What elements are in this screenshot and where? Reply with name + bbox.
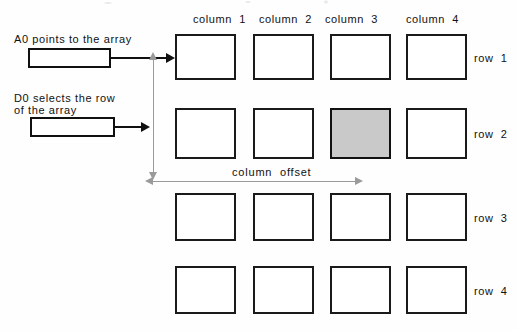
array-cell[interactable] (330, 266, 391, 314)
array-cell[interactable] (253, 266, 314, 314)
column-offset-arrow-right-icon (355, 177, 363, 185)
array-cell[interactable] (253, 108, 314, 159)
array-cell-selected[interactable] (330, 108, 391, 159)
row-label-4: row 4 (474, 285, 508, 298)
column-header-1: column 1 (193, 13, 246, 26)
array-cell[interactable] (175, 193, 236, 241)
column-header-2: column 2 (259, 13, 312, 26)
array-cell[interactable] (406, 34, 467, 80)
row-label-2: row 2 (474, 128, 508, 141)
row-offset-arrow-up-icon (149, 52, 157, 60)
column-header-4: column 4 (406, 13, 459, 26)
a0-lead-line (111, 57, 168, 59)
d0-caption-line-2: of the array (14, 104, 77, 117)
array-cell[interactable] (175, 266, 236, 314)
array-cell[interactable] (175, 108, 236, 159)
array-cell[interactable] (406, 266, 467, 314)
array-cell[interactable] (175, 34, 236, 80)
d0-register-box (30, 117, 115, 137)
row-label-3: row 3 (474, 212, 508, 225)
column-offset-arrow-left-icon (145, 177, 153, 185)
scan-artifact-band (60, 0, 360, 6)
array-cell[interactable] (330, 34, 391, 80)
a0-arrow-head-icon (166, 53, 175, 63)
a0-register-box (28, 48, 111, 68)
d0-lead-line (115, 126, 143, 128)
array-cell[interactable] (330, 193, 391, 241)
row-offset-measure-line (153, 58, 154, 174)
array-cell[interactable] (406, 108, 467, 159)
column-offset-measure-line (152, 181, 357, 182)
row-label-1: row 1 (474, 52, 508, 65)
array-cell[interactable] (253, 34, 314, 80)
array-cell[interactable] (253, 193, 314, 241)
a0-caption: A0 points to the array (14, 33, 132, 46)
d0-arrow-head-icon (141, 122, 150, 132)
array-addressing-diagram: column 1 column 2 column 3 column 4 A0 p… (0, 0, 517, 331)
array-cell[interactable] (406, 193, 467, 241)
column-header-3: column 3 (325, 13, 378, 26)
column-offset-label: column offset (232, 166, 311, 179)
